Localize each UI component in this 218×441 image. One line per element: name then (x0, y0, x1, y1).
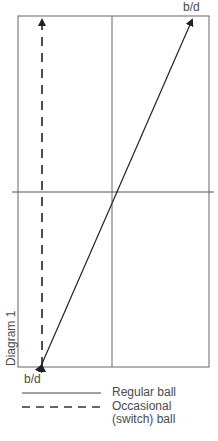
diagram-title: Diagram 1 (4, 311, 18, 366)
top-bd-label: b/d (183, 1, 200, 14)
legend-regular-label: Regular ball (112, 386, 176, 399)
legend-switch-label-2: (switch) ball (112, 413, 175, 426)
bottom-bd-label: b/d (24, 373, 41, 386)
regular-ball-line (41, 20, 192, 366)
